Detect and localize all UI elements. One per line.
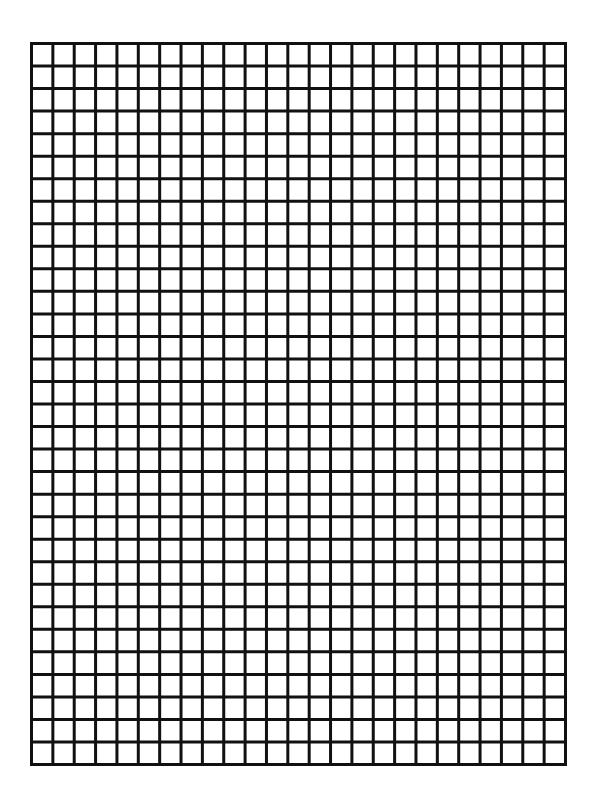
graph-paper-grid xyxy=(30,42,567,766)
